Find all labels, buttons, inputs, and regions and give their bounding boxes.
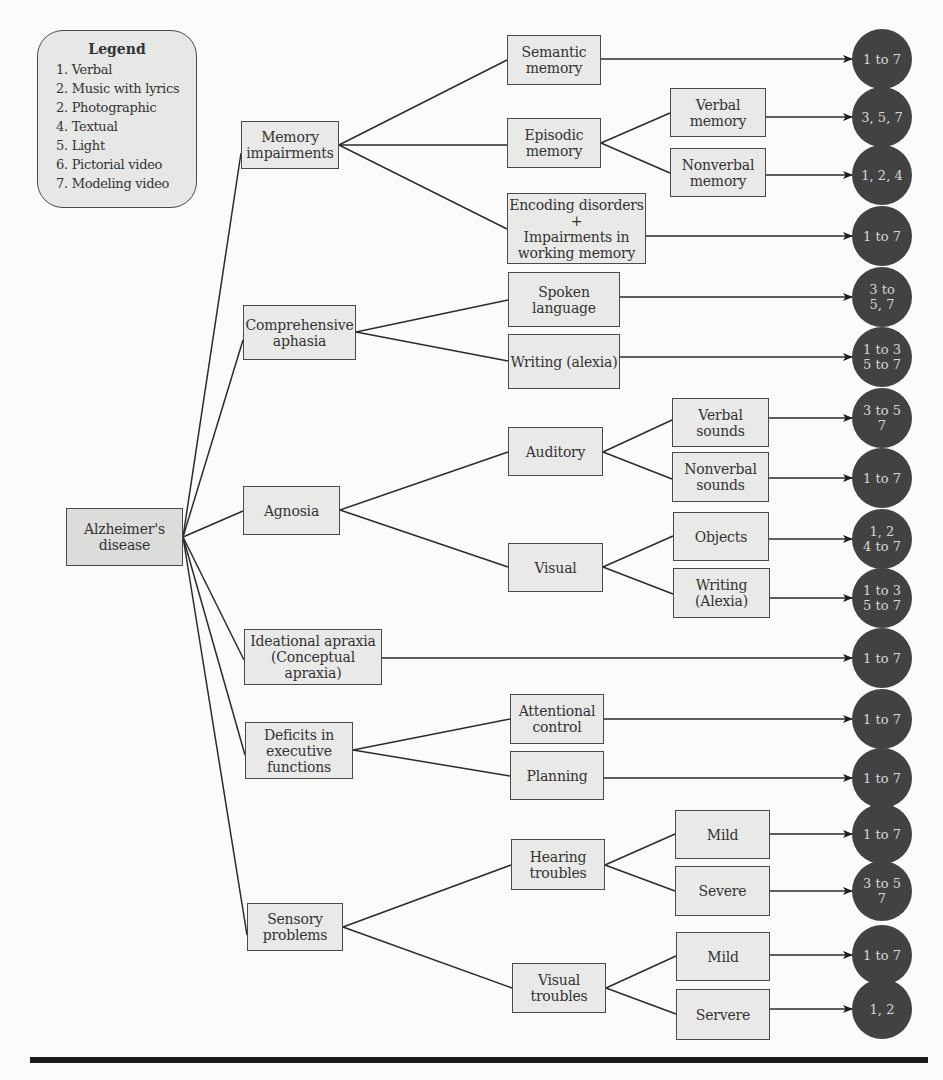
node-objects: Objects — [673, 512, 769, 561]
root-node-alzheimers: Alzheimer's disease — [66, 508, 183, 566]
outcome-circle: 1 to 3 5 to 7 — [852, 568, 912, 628]
outcome-circle: 1 to 7 — [852, 206, 912, 266]
outcome-circle: 3 to 5 7 — [852, 388, 912, 448]
node-writing-alexia-aphasia: Writing (alexia) — [508, 334, 620, 389]
node-nonverbal-memory: Nonverbal memory — [670, 148, 766, 197]
node-comprehensive-aphasia: Comprehensive aphasia — [243, 305, 356, 360]
legend-box: Legend 1. Verbal 2. Music with lyrics 2.… — [37, 30, 197, 208]
outcome-circle: 1 to 7 — [852, 29, 912, 89]
node-hearing-severe: Severe — [675, 866, 770, 916]
node-semantic-memory: Semantic memory — [507, 35, 601, 85]
node-hearing-mild: Mild — [675, 810, 770, 859]
node-attentional-control: Attentional control — [510, 694, 604, 744]
node-auditory: Auditory — [508, 427, 603, 476]
outcome-circle: 3, 5, 7 — [852, 87, 912, 147]
legend-item: 2. Music with lyrics — [56, 79, 196, 98]
outcome-circle: 1, 2, 4 — [852, 145, 912, 205]
legend-item: 2. Photographic — [56, 98, 196, 117]
node-hearing-troubles: Hearing troubles — [511, 839, 605, 890]
node-sensory-problems: Sensory problems — [247, 903, 343, 951]
outcome-circle: 1 to 7 — [852, 925, 912, 985]
outcome-circle: 3 to 5, 7 — [852, 267, 912, 327]
node-visual-mild: Mild — [676, 932, 770, 981]
node-spoken-language: Spoken language — [508, 272, 620, 327]
outcome-circle: 1 to 7 — [852, 689, 912, 749]
outcome-circle: 1 to 7 — [852, 628, 912, 688]
node-agnosia: Agnosia — [243, 486, 340, 535]
outcome-circle: 1 to 3 5 to 7 — [852, 327, 912, 387]
bottom-rule-divider — [30, 1057, 928, 1063]
node-visual-troubles: Visual troubles — [512, 963, 606, 1013]
outcome-circle: 1 to 7 — [852, 804, 912, 864]
node-executive-deficits: Deficits in executive functions — [245, 722, 353, 779]
outcome-circle: 3 to 5 7 — [852, 861, 912, 921]
outcome-circle: 1 to 7 — [852, 748, 912, 808]
node-writing-alexia-visual: Writing (Alexia) — [673, 568, 770, 618]
diagram-canvas: Legend 1. Verbal 2. Music with lyrics 2.… — [0, 0, 943, 1080]
legend-title: Legend — [38, 41, 196, 57]
node-verbal-sounds: Verbal sounds — [672, 398, 769, 447]
node-planning: Planning — [510, 751, 604, 800]
outcome-circle: 1, 2 — [852, 979, 912, 1039]
node-visual-servere: Servere — [676, 989, 770, 1040]
outcome-circle: 1, 2 4 to 7 — [852, 509, 912, 569]
node-nonverbal-sounds: Nonverbal sounds — [672, 452, 769, 502]
node-visual: Visual — [508, 543, 603, 592]
legend-item: 1. Verbal — [56, 60, 196, 79]
node-encoding-working-memory: Encoding disorders + Impairments in work… — [507, 193, 646, 264]
node-episodic-memory: Episodic memory — [507, 118, 601, 168]
node-verbal-memory: Verbal memory — [670, 88, 766, 137]
legend-item: 5. Light — [56, 136, 196, 155]
node-ideational-apraxia: Ideational apraxia (Conceptual apraxia) — [244, 629, 382, 685]
outcome-circle: 1 to 7 — [852, 448, 912, 508]
legend-item: 4. Textual — [56, 117, 196, 136]
node-memory-impairments: Memory impairments — [241, 121, 339, 169]
legend-item: 6. Pictorial video — [56, 155, 196, 174]
legend-item: 7. Modeling video — [56, 174, 196, 193]
